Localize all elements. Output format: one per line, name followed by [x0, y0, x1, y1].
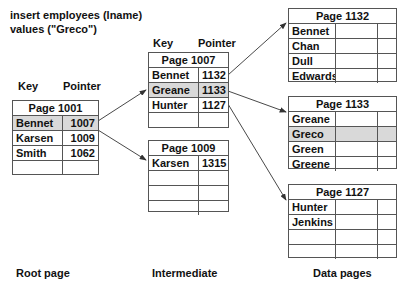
index-row: Karsen 1009 [13, 131, 98, 146]
data-page-1127: Page 1127 Hunter Jenkins [288, 184, 397, 258]
row-col2 [335, 215, 377, 229]
row-key: Chan [289, 39, 335, 53]
row-col3 [377, 157, 396, 171]
index-row [149, 186, 228, 201]
root-page-1001: Page 1001 Bennet 1007 Karsen 1009 Smith … [12, 100, 99, 175]
row-col2 [335, 245, 377, 259]
data-row [289, 245, 396, 259]
row-pointer: 1062 [62, 146, 98, 160]
row-key: Bennet [289, 24, 335, 38]
index-row [149, 113, 228, 127]
row-pointer [198, 201, 228, 215]
row-col3 [377, 24, 396, 38]
row-pointer: 1127 [198, 98, 228, 112]
index-row: Hunter 1127 [149, 98, 228, 113]
intermediate-label: Intermediate [152, 266, 217, 280]
data-page-1133: Page 1133 Greane Greco Green Greene [288, 96, 397, 169]
intermediate-key-header: Key [153, 37, 173, 49]
root-pointer-header: Pointer [63, 80, 101, 92]
row-key: Greane [149, 83, 198, 97]
row-key: Bennet [149, 68, 198, 82]
page-title: Page 1127 [289, 185, 396, 200]
root-key-header: Key [18, 80, 38, 92]
data-row: Bennet [289, 24, 396, 39]
row-col3 [377, 142, 396, 156]
index-row [149, 171, 228, 186]
row-col2 [335, 112, 377, 126]
row-key: Hunter [149, 98, 198, 112]
row-key: Karsen [149, 156, 198, 170]
row-key [149, 113, 198, 127]
row-key: Greane [289, 112, 335, 126]
row-key: Jenkins [289, 215, 335, 229]
root-page-label: Root page [16, 266, 70, 280]
data-row [289, 230, 396, 245]
row-pointer [198, 171, 228, 185]
index-row: Karsen 1315 [149, 156, 228, 171]
row-col2 [335, 54, 377, 68]
row-col3 [377, 245, 396, 259]
row-key: Karsen [13, 131, 62, 145]
row-col3 [377, 215, 396, 229]
index-row: Bennet 1132 [149, 68, 228, 83]
row-col2 [335, 157, 377, 171]
row-col3 [377, 54, 396, 68]
row-pointer: 1315 [198, 156, 228, 170]
page-title: Page 1001 [13, 101, 98, 116]
row-pointer: 1133 [198, 83, 228, 97]
arrow-1001-to-1009 [98, 130, 146, 160]
row-col2 [335, 127, 377, 141]
row-col2 [335, 39, 377, 53]
row-col3 [377, 230, 396, 244]
index-row [13, 161, 98, 175]
page-title: Page 1132 [289, 9, 396, 24]
arrow-1007-to-1132 [228, 23, 286, 75]
row-pointer [198, 186, 228, 200]
row-pointer [198, 113, 228, 127]
row-col2 [335, 142, 377, 156]
intermediate-page-1009: Page 1009 Karsen 1315 [148, 140, 229, 212]
data-row: Greene [289, 157, 396, 171]
index-row [149, 201, 228, 215]
data-page-1132: Page 1132 Bennet Chan Dull Edwards [288, 8, 397, 82]
row-key: Smith [13, 146, 62, 160]
row-key: Green [289, 142, 335, 156]
data-row: Chan [289, 39, 396, 54]
row-key: Greene [289, 157, 335, 171]
row-col2 [335, 24, 377, 38]
data-row: Dull [289, 54, 396, 69]
data-row: Edwards [289, 69, 396, 83]
data-row: Hunter [289, 200, 396, 215]
row-key [149, 186, 198, 200]
row-key [13, 161, 62, 175]
row-pointer: 1007 [62, 116, 98, 130]
row-key: Hunter [289, 200, 335, 214]
row-col2 [335, 69, 377, 83]
row-col3 [377, 112, 396, 126]
row-col3 [377, 127, 396, 141]
row-key: Bennet [13, 116, 62, 130]
row-pointer: 1132 [198, 68, 228, 82]
data-pages-label: Data pages [313, 266, 372, 280]
row-key [289, 245, 335, 259]
row-key: Edwards [289, 69, 335, 83]
arrow-1007-to-1127 [228, 104, 286, 200]
row-key: Greco [289, 127, 335, 141]
page-title: Page 1007 [149, 53, 228, 68]
data-row: Jenkins [289, 215, 396, 230]
page-title: Page 1133 [289, 97, 396, 112]
row-key [149, 201, 198, 215]
arrow-1007-to-1133 [228, 91, 286, 112]
data-row-inserted: Greco [289, 127, 396, 142]
row-col3 [377, 39, 396, 53]
intermediate-pointer-header: Pointer [198, 37, 236, 49]
row-col2 [335, 200, 377, 214]
index-row: Greane 1133 [149, 83, 228, 98]
index-row: Bennet 1007 [13, 116, 98, 131]
row-key [149, 171, 198, 185]
row-col3 [377, 69, 396, 83]
row-key [289, 230, 335, 244]
row-col3 [377, 200, 396, 214]
row-key: Dull [289, 54, 335, 68]
index-row: Smith 1062 [13, 146, 98, 161]
